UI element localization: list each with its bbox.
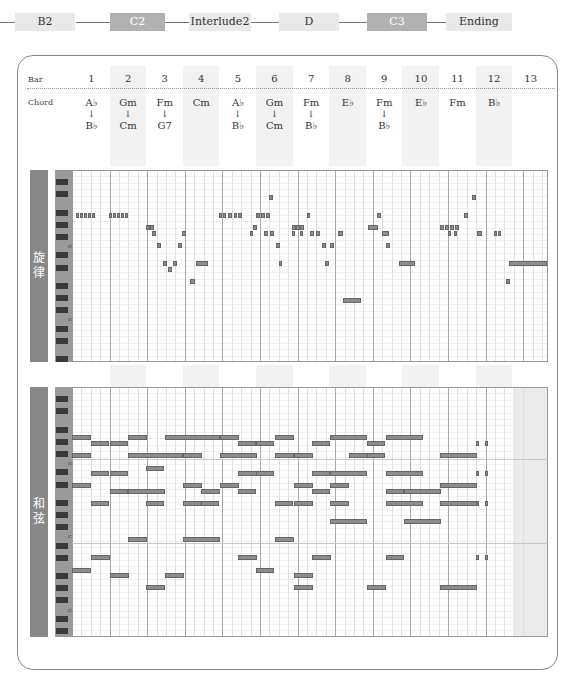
note-block[interactable]	[121, 213, 124, 218]
note-block[interactable]	[238, 441, 256, 446]
note-block[interactable]	[399, 261, 415, 266]
note-block[interactable]	[476, 501, 479, 506]
note-block[interactable]	[256, 568, 274, 573]
note-block[interactable]	[110, 441, 128, 446]
note-block[interactable]	[445, 225, 449, 230]
note-block[interactable]	[485, 471, 488, 476]
note-block[interactable]	[261, 213, 265, 218]
note-block[interactable]	[146, 466, 164, 471]
note-block[interactable]	[312, 555, 331, 560]
note-block[interactable]	[448, 231, 451, 236]
note-block[interactable]	[220, 453, 257, 458]
note-block[interactable]	[440, 225, 444, 230]
note-block[interactable]	[307, 213, 310, 218]
note-block[interactable]	[190, 279, 195, 284]
note-block[interactable]	[316, 231, 320, 236]
note-block[interactable]	[183, 501, 202, 506]
note-block[interactable]	[506, 279, 510, 284]
note-block[interactable]	[238, 471, 257, 476]
note-block[interactable]	[88, 213, 91, 218]
note-block[interactable]	[310, 231, 314, 236]
note-block[interactable]	[386, 471, 423, 476]
note-block[interactable]	[294, 483, 313, 488]
note-block[interactable]	[455, 225, 459, 230]
note-block[interactable]	[109, 213, 112, 218]
note-block[interactable]	[146, 501, 164, 506]
note-block[interactable]	[312, 489, 330, 494]
note-block[interactable]	[330, 501, 349, 506]
note-block[interactable]	[270, 231, 274, 236]
note-block[interactable]	[498, 231, 501, 236]
note-block[interactable]	[84, 213, 87, 218]
note-block[interactable]	[275, 453, 294, 458]
note-block[interactable]	[183, 537, 220, 542]
note-block[interactable]	[275, 435, 294, 440]
note-block[interactable]	[220, 483, 239, 488]
section-c2[interactable]: C2	[110, 13, 165, 31]
note-block[interactable]	[92, 213, 95, 218]
note-block[interactable]	[163, 261, 167, 266]
note-block[interactable]	[349, 453, 368, 458]
note-block[interactable]	[220, 435, 239, 440]
note-block[interactable]	[253, 225, 257, 230]
note-block[interactable]	[168, 267, 172, 272]
note-block[interactable]	[80, 213, 83, 218]
note-block[interactable]	[440, 585, 477, 590]
note-block[interactable]	[183, 483, 202, 488]
note-block[interactable]	[338, 231, 343, 236]
note-block[interactable]	[367, 441, 385, 446]
note-block[interactable]	[91, 501, 109, 506]
note-block[interactable]	[128, 537, 147, 542]
note-block[interactable]	[440, 501, 477, 506]
note-block[interactable]	[157, 243, 161, 248]
section-b2[interactable]: B2	[15, 13, 75, 31]
note-block[interactable]	[382, 231, 389, 236]
note-block[interactable]	[128, 489, 165, 494]
note-block[interactable]	[238, 213, 242, 218]
note-block[interactable]	[128, 453, 183, 458]
note-block[interactable]	[476, 471, 479, 476]
note-block[interactable]	[152, 231, 156, 236]
note-block[interactable]	[113, 213, 116, 218]
note-block[interactable]	[72, 453, 91, 458]
section-interlude2[interactable]: Interlude2	[189, 13, 251, 31]
melody-piano-roll[interactable]	[72, 170, 548, 362]
note-block[interactable]	[464, 213, 468, 218]
note-block[interactable]	[72, 568, 91, 573]
note-block[interactable]	[386, 555, 404, 560]
section-d[interactable]: D	[279, 13, 339, 31]
note-block[interactable]	[330, 483, 349, 488]
note-block[interactable]	[256, 471, 274, 476]
note-block[interactable]	[325, 261, 329, 266]
note-block[interactable]	[300, 225, 304, 230]
note-block[interactable]	[91, 471, 109, 476]
note-block[interactable]	[72, 483, 91, 488]
note-block[interactable]	[146, 585, 165, 590]
note-block[interactable]	[117, 213, 120, 218]
note-block[interactable]	[294, 453, 313, 458]
note-block[interactable]	[294, 573, 313, 578]
note-block[interactable]	[269, 195, 273, 200]
note-block[interactable]	[343, 298, 361, 303]
note-block[interactable]	[477, 231, 482, 236]
note-block[interactable]	[367, 453, 385, 458]
note-block[interactable]	[330, 435, 367, 440]
note-block[interactable]	[330, 471, 367, 476]
note-block[interactable]	[110, 489, 128, 494]
note-block[interactable]	[201, 501, 219, 506]
note-block[interactable]	[219, 213, 222, 218]
note-block[interactable]	[264, 231, 268, 236]
note-block[interactable]	[150, 225, 154, 230]
note-block[interactable]	[377, 213, 381, 218]
note-block[interactable]	[312, 471, 330, 476]
note-block[interactable]	[294, 585, 313, 590]
note-block[interactable]	[165, 435, 220, 440]
note-block[interactable]	[276, 243, 280, 248]
note-block[interactable]	[404, 489, 441, 494]
note-block[interactable]	[256, 441, 274, 446]
note-block[interactable]	[386, 243, 390, 248]
note-block[interactable]	[367, 585, 386, 590]
note-block[interactable]	[279, 261, 282, 266]
note-block[interactable]	[322, 243, 326, 248]
note-block[interactable]	[196, 261, 208, 266]
